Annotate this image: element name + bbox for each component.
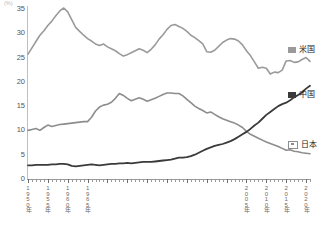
plot-area — [28, 8, 310, 178]
x-axis-minor-tick — [99, 179, 100, 182]
x-axis-minor-tick — [302, 179, 303, 182]
x-axis-minor-tick — [223, 179, 224, 182]
x-axis-minor-tick — [32, 179, 33, 182]
x-axis-minor-tick — [278, 179, 279, 182]
x-axis-minor-tick — [60, 179, 61, 182]
x-axis-minor-tick — [56, 179, 57, 182]
x-axis-minor-tick — [235, 179, 236, 182]
series-line-cn — [28, 86, 310, 167]
x-axis-minor-tick — [270, 179, 271, 182]
x-axis-minor-tick — [103, 179, 104, 182]
x-axis-tick-label: 1960年 — [65, 185, 71, 213]
x-axis-major-tick — [286, 179, 287, 183]
legend-item-0[interactable]: 米国 — [288, 46, 315, 54]
x-axis-minor-tick — [254, 179, 255, 182]
x-axis-minor-tick — [36, 179, 37, 182]
x-axis-minor-tick — [143, 179, 144, 182]
x-axis-tick-label: 2020年 — [303, 185, 309, 213]
x-axis-minor-tick — [96, 179, 97, 182]
x-axis-minor-tick — [282, 179, 283, 182]
x-axis-minor-tick — [195, 179, 196, 182]
x-axis-minor-tick — [151, 179, 152, 182]
x-axis-minor-tick — [183, 179, 184, 182]
x-axis-minor-tick — [219, 179, 220, 182]
legend-swatch-icon — [288, 47, 296, 53]
x-axis-minor-tick — [40, 179, 41, 182]
x-axis-minor-tick — [123, 179, 124, 182]
x-axis-minor-tick — [242, 179, 243, 182]
x-axis-major-tick — [227, 179, 228, 183]
x-axis-minor-tick — [131, 179, 132, 182]
x-axis-minor-tick — [171, 179, 172, 182]
x-axis-major-tick — [306, 179, 307, 183]
x-axis-major-tick — [266, 179, 267, 183]
series-line-jp — [28, 93, 310, 154]
x-axis-major-tick — [68, 179, 69, 183]
x-axis-minor-tick — [119, 179, 120, 182]
x-axis-minor-tick — [215, 179, 216, 182]
x-axis-minor-tick — [191, 179, 192, 182]
series-line-us — [28, 8, 310, 74]
legend-label: 中国 — [299, 91, 315, 99]
chart-container: (%) 05101520253035 1950年1955年1960年1965年2… — [0, 0, 332, 232]
series-paths — [28, 8, 310, 178]
x-axis-major-tick — [88, 179, 89, 183]
x-axis-minor-tick — [310, 179, 311, 182]
x-axis-minor-tick — [258, 179, 259, 182]
x-axis-minor-tick — [155, 179, 156, 182]
y-axis-tick-label: 35 — [17, 4, 25, 13]
x-axis-minor-tick — [80, 179, 81, 182]
y-axis: 05101520253035 — [0, 0, 25, 186]
y-axis-tick-label: 25 — [17, 52, 25, 61]
y-axis-tick-label: 20 — [17, 76, 25, 85]
x-axis-tick-label: 2015年 — [283, 185, 289, 213]
x-axis-minor-tick — [52, 179, 53, 182]
legend-swatch-icon — [288, 92, 296, 98]
x-axis-major-tick — [28, 179, 29, 183]
x-axis-minor-tick — [239, 179, 240, 182]
x-axis-major-tick — [147, 179, 148, 183]
x-axis-major-tick — [48, 179, 49, 183]
y-axis-tick-label: 0 — [21, 174, 25, 183]
y-axis-tick-label: 5 — [21, 149, 25, 158]
x-axis-minor-tick — [294, 179, 295, 182]
legend-swatch-icon — [288, 141, 298, 149]
x-axis-minor-tick — [44, 179, 45, 182]
x-axis-minor-tick — [163, 179, 164, 182]
y-axis-tick-label: 30 — [17, 28, 25, 37]
x-axis-minor-tick — [76, 179, 77, 182]
x-axis-minor-tick — [250, 179, 251, 182]
legend-label: 日本 — [301, 141, 317, 149]
x-axis-minor-tick — [211, 179, 212, 182]
legend-item-1[interactable]: 中国 — [288, 91, 315, 99]
y-axis-tick-label: 10 — [17, 125, 25, 134]
legend-label: 米国 — [299, 46, 315, 54]
x-axis-minor-tick — [290, 179, 291, 182]
x-axis-minor-tick — [199, 179, 200, 182]
x-axis-minor-tick — [159, 179, 160, 182]
legend-item-2[interactable]: 日本 — [288, 141, 317, 149]
x-axis-tick-label: 2010年 — [263, 185, 269, 213]
x-axis-minor-tick — [262, 179, 263, 182]
x-axis-minor-tick — [115, 179, 116, 182]
x-axis-minor-tick — [135, 179, 136, 182]
x-axis-tick-label: 2005年 — [243, 185, 249, 213]
x-axis-major-tick — [246, 179, 247, 183]
x-axis-minor-tick — [298, 179, 299, 182]
x-axis-minor-tick — [203, 179, 204, 182]
x-axis-tick-label: 1950年 — [25, 185, 31, 213]
x-axis-minor-tick — [111, 179, 112, 182]
x-axis-tick-label: 1965年 — [85, 185, 91, 213]
x-axis-minor-tick — [274, 179, 275, 182]
x-axis-minor-tick — [64, 179, 65, 182]
x-axis-major-tick — [167, 179, 168, 183]
x-axis-minor-tick — [72, 179, 73, 182]
x-axis-major-tick — [127, 179, 128, 183]
x-axis-minor-tick — [179, 179, 180, 182]
x-axis-tick-label: 1955年 — [45, 185, 51, 213]
x-axis-minor-tick — [231, 179, 232, 182]
x-axis-major-tick — [107, 179, 108, 183]
x-axis-minor-tick — [139, 179, 140, 182]
x-axis-minor-tick — [92, 179, 93, 182]
x-axis-major-tick — [207, 179, 208, 183]
